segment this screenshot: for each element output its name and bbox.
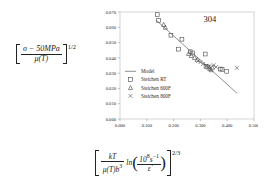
x-tick-label: 0.300 bbox=[195, 123, 206, 128]
x-tick-label: 0.000 bbox=[115, 123, 126, 128]
legend-label: Steichen 800F bbox=[141, 93, 171, 99]
plot-area: 0.0000.0100.0200.0300.0400.0500.0600.070… bbox=[88, 6, 258, 144]
y-tick-label: 0.070 bbox=[106, 10, 117, 15]
y-tick-label: 0.020 bbox=[106, 86, 117, 91]
plot-frame bbox=[120, 12, 254, 119]
y-axis-denominator: μ(T) bbox=[21, 55, 62, 64]
x-axis-frac-denominator: μ(T)b3 bbox=[101, 162, 125, 173]
x-axis-seconds-exponent: −1 bbox=[153, 153, 159, 159]
x-axis-ten: 10 bbox=[139, 155, 147, 164]
y-axis-exponent: 1/2 bbox=[68, 44, 76, 51]
x-tick-label: 0.400 bbox=[222, 123, 233, 128]
x-tick-label: 0.200 bbox=[168, 123, 179, 128]
x-axis-paren-group: 108s−1ε̇ bbox=[133, 152, 165, 174]
y-tick-label: 0.010 bbox=[106, 101, 117, 106]
x-tick-label: 0.500 bbox=[249, 123, 258, 128]
legend-label: Steichen RT bbox=[141, 76, 167, 82]
legend-label: Steichen 600F bbox=[141, 85, 171, 91]
y-tick-label: 0.040 bbox=[106, 56, 117, 61]
x-axis-bracket-group: kT μ(T)b3 ln108s−1ε̇ bbox=[95, 150, 171, 176]
y-tick-label: 0.050 bbox=[106, 40, 117, 45]
y-axis-label: σ − 50MPa μ(T) 1/2 bbox=[4, 44, 88, 64]
y-tick-label: 0.000 bbox=[106, 117, 117, 122]
x-axis-inner-fraction: 108s−1ε̇ bbox=[137, 153, 161, 173]
legend-label: Model bbox=[141, 68, 155, 74]
x-axis-b-exponent: 3 bbox=[119, 163, 122, 169]
scatter-chart: 0.0000.0100.0200.0300.0400.0500.0600.070… bbox=[88, 6, 258, 144]
y-axis-bracket-group: σ − 50MPa μ(T) bbox=[16, 44, 67, 64]
y-axis-fraction: σ − 50MPa μ(T) bbox=[21, 45, 62, 63]
x-axis-inner-numerator: 108s−1 bbox=[137, 153, 161, 165]
chart-root: σ − 50MPa μ(T) 1/2 0.0000.0100.0200.0300… bbox=[0, 0, 275, 187]
x-axis-strainrate: ε̇ bbox=[137, 165, 161, 173]
x-axis-fraction: kT μ(T)b3 bbox=[101, 153, 125, 173]
x-axis-frac-numerator: kT bbox=[101, 153, 125, 162]
chart-annotation: 304 bbox=[203, 14, 217, 24]
x-axis-exponent: 2/3 bbox=[172, 150, 180, 157]
y-tick-label: 0.030 bbox=[106, 71, 117, 76]
x-tick-label: 0.100 bbox=[142, 123, 153, 128]
x-axis-label: kT μ(T)b3 ln108s−1ε̇ 2/3 bbox=[0, 150, 275, 176]
x-axis-mu-term: μ(T)b bbox=[103, 164, 120, 173]
y-tick-label: 0.060 bbox=[106, 25, 117, 30]
